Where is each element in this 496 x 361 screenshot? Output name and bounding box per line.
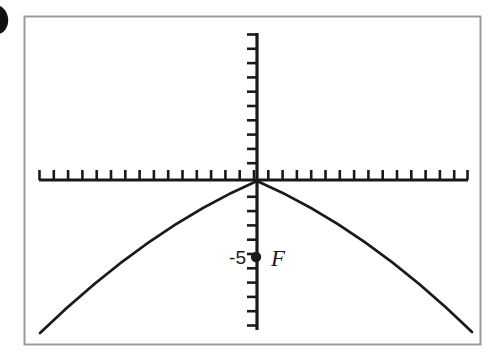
parabola-graph-canvas: -5 F bbox=[0, 0, 496, 361]
y-tick-label-minus-5: -5 bbox=[229, 247, 246, 268]
focus-point-label: F bbox=[270, 246, 286, 271]
focus-point-dot bbox=[251, 252, 261, 262]
figure-root: -5 F bbox=[0, 0, 496, 361]
